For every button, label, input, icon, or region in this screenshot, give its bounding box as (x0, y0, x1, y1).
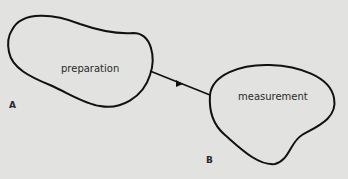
arrow-head-icon (176, 80, 183, 87)
measurement-label: measurement (238, 91, 308, 102)
diagram-canvas: preparation measurement A B (0, 0, 348, 179)
diagram-shapes (0, 0, 348, 179)
measurement-blob (210, 65, 335, 164)
preparation-label: preparation (61, 63, 119, 74)
preparation-blob (8, 16, 153, 107)
point-a-label: A (9, 100, 16, 110)
point-b-label: B (206, 155, 213, 165)
